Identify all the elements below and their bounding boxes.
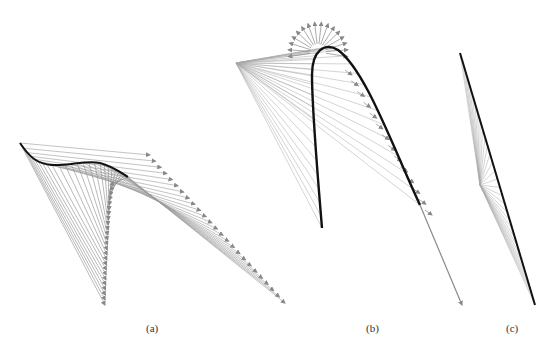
panel-c-line (460, 53, 535, 305)
panel-a-vector-field (20, 143, 285, 305)
panel-c-label: (c) (506, 322, 518, 334)
panel-b-label: (b) (366, 322, 379, 334)
figure-canvas (0, 0, 555, 353)
panel-a-label: (a) (146, 322, 158, 334)
panel-b-vector-field (236, 22, 462, 305)
